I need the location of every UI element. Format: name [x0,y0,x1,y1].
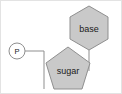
sugar-label: sugar [57,66,80,76]
base-label: base [79,24,99,34]
phosphate-node[interactable]: P [9,43,25,59]
base-node[interactable]: base [70,6,108,50]
sugar-node[interactable]: sugar [46,47,90,89]
nucleotide-diagram-canvas: base sugar P [0,0,122,94]
connector-phosphate-to-sugar [25,51,44,89]
nucleotide-diagram: base sugar P [1,1,121,93]
phosphate-label: P [14,47,19,56]
